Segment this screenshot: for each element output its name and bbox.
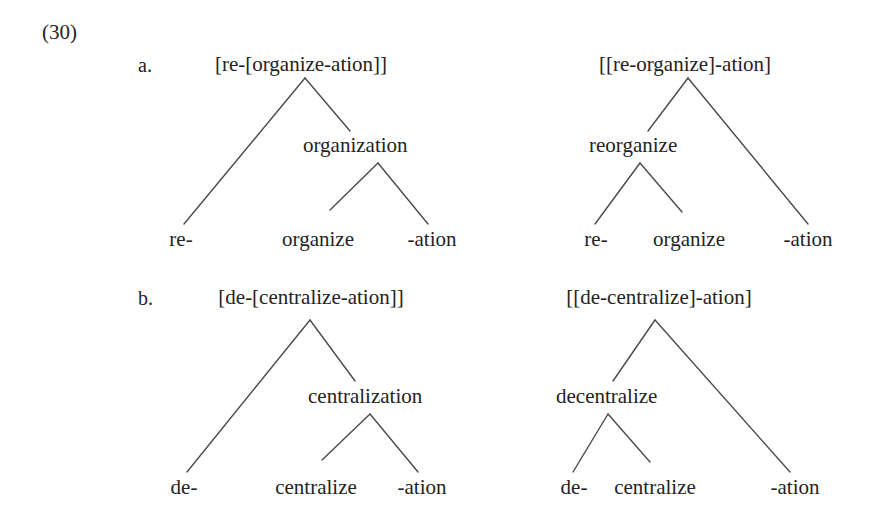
branch-a1-mid-left bbox=[330, 163, 378, 210]
morphology-tree-figure: (30) a. [re-[organize-ation]] organizati… bbox=[0, 0, 873, 524]
item-letter-a: a. bbox=[138, 55, 152, 75]
branch-b1-mid-right bbox=[370, 414, 418, 472]
tree-b2-root-label: [[de-centralize]-ation] bbox=[566, 287, 751, 308]
tree-b2-intermediate-label: decentralize bbox=[556, 386, 657, 407]
tree-a2-intermediate-label: reorganize bbox=[589, 135, 677, 156]
tree-a2-leaf-1: re- bbox=[584, 229, 607, 250]
branch-a1-root-left bbox=[184, 78, 305, 224]
example-number: (30) bbox=[42, 22, 77, 43]
tree-branch-lines bbox=[0, 0, 873, 524]
tree-a2-leaf-2: organize bbox=[653, 229, 725, 250]
tree-b1-leaf-2: centralize bbox=[275, 477, 357, 498]
branch-a2-mid-left bbox=[595, 163, 640, 224]
branch-b1-mid-left bbox=[322, 414, 370, 460]
branch-b2-mid-right bbox=[608, 414, 650, 462]
tree-a2-leaf-3: -ation bbox=[784, 229, 833, 250]
branch-a1-root-right bbox=[305, 78, 350, 131]
branch-a2-root-left bbox=[648, 78, 688, 131]
branch-a1-mid-right bbox=[378, 163, 428, 224]
branch-b2-mid-left bbox=[573, 414, 608, 472]
tree-a1-root-label: [re-[organize-ation]] bbox=[215, 54, 387, 75]
tree-b2-leaf-3: -ation bbox=[771, 477, 820, 498]
tree-a1-intermediate-label: organization bbox=[303, 135, 408, 156]
item-letter-b: b. bbox=[138, 288, 153, 308]
tree-b1-intermediate-label: centralization bbox=[308, 386, 422, 407]
branch-b1-root-right bbox=[310, 320, 355, 381]
tree-b1-leaf-1: de- bbox=[171, 477, 198, 498]
tree-b1-leaf-3: -ation bbox=[398, 477, 447, 498]
tree-b2-leaf-2: centralize bbox=[614, 477, 696, 498]
branch-b2-root-left bbox=[613, 320, 655, 381]
branch-b2-root-right bbox=[655, 320, 790, 472]
tree-a1-leaf-1: re- bbox=[169, 229, 192, 250]
tree-a1-leaf-3: -ation bbox=[408, 229, 457, 250]
tree-b2-leaf-1: de- bbox=[561, 477, 588, 498]
branch-a2-root-right bbox=[688, 78, 808, 224]
tree-a1-leaf-2: organize bbox=[282, 229, 354, 250]
branch-a2-mid-right bbox=[640, 163, 682, 212]
tree-a2-root-label: [[re-organize]-ation] bbox=[599, 54, 771, 75]
tree-b1-root-label: [de-[centralize-ation]] bbox=[218, 287, 403, 308]
branch-b1-root-left bbox=[187, 320, 310, 472]
